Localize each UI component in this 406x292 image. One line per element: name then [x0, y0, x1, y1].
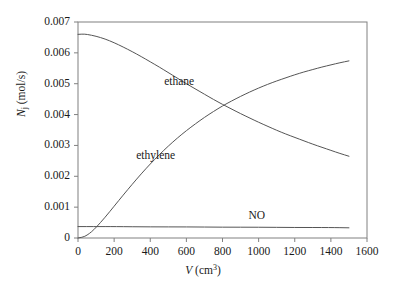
y-axis-tick-label: 0.001	[18, 201, 70, 213]
y-axis-tick-label: 0.006	[18, 47, 70, 59]
series-curve-ethane	[78, 34, 349, 156]
y-axis-tick-label: 0.004	[18, 109, 70, 121]
x-axis-label: V (cm3)	[0, 264, 406, 277]
x-axis-label-unit-close: )	[217, 264, 221, 276]
y-axis-tick-label: 0.005	[18, 78, 70, 90]
y-axis-tick-label: 0	[18, 232, 70, 244]
series-curve-ethylene	[78, 61, 349, 238]
y-axis-tick-label: 0.003	[18, 139, 70, 151]
series-curve-no	[78, 227, 349, 228]
series-label-ethane: ethane	[149, 76, 209, 88]
series-label-no: NO	[227, 210, 287, 222]
x-axis-label-variable: V	[185, 264, 192, 276]
y-axis-tick-label: 0.002	[18, 170, 70, 182]
plot-frame	[78, 22, 367, 238]
chart-figure: Nj (mol/s) V (cm3) 020040060080010001200…	[0, 0, 406, 292]
x-axis-tick-label: 1600	[342, 246, 392, 258]
x-axis-label-unit-base: (cm	[195, 264, 213, 276]
y-axis-tick-label: 0.007	[18, 16, 70, 28]
series-label-ethylene: ethylene	[126, 150, 186, 162]
